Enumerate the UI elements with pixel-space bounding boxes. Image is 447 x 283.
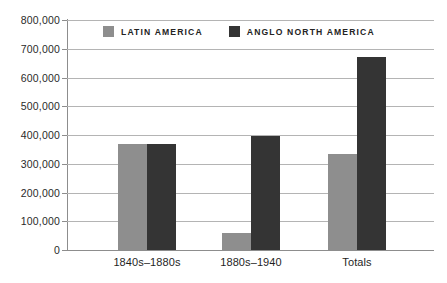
gridline [67, 20, 434, 21]
legend-swatch-icon-latin-america [103, 26, 114, 37]
x-axis-tick-label: 1880s–1940 [190, 256, 312, 268]
y-axis-tick-label: 0 [4, 245, 60, 256]
x-axis-tick-label: Totals [296, 256, 418, 268]
y-axis-tick [62, 221, 67, 222]
bar-anglo-north-america [251, 136, 280, 250]
y-axis-tick [62, 250, 67, 251]
bar-anglo-north-america [357, 57, 386, 250]
bar-chart: 800,000700,000600,000500,000400,000300,0… [0, 0, 447, 283]
y-axis-tick [62, 135, 67, 136]
y-axis-tick-label: 300,000 [4, 159, 60, 170]
bar-latin-america [222, 233, 251, 250]
y-axis-tick-label: 600,000 [4, 73, 60, 84]
legend-label-anglo-north-america: ANGLO NORTH AMERICA [247, 27, 375, 37]
y-axis-tick [62, 164, 67, 165]
y-axis-tick-label: 700,000 [4, 44, 60, 55]
chart-legend: LATIN AMERICA ANGLO NORTH AMERICA [103, 26, 375, 37]
y-axis-tick [62, 193, 67, 194]
legend-label-latin-america: LATIN AMERICA [121, 27, 203, 37]
y-axis-tick [62, 49, 67, 50]
y-axis-labels: 800,000700,000600,000500,000400,000300,0… [0, 0, 60, 283]
y-axis-tick-label: 200,000 [4, 188, 60, 199]
gridline [67, 250, 434, 251]
legend-item-latin-america: LATIN AMERICA [103, 26, 203, 37]
bar-latin-america [118, 144, 147, 250]
legend-swatch-icon-anglo-north-america [229, 26, 240, 37]
bar-anglo-north-america [147, 144, 176, 250]
y-axis-tick-label: 800,000 [4, 15, 60, 26]
y-axis-tick [62, 106, 67, 107]
y-axis-tick-label: 400,000 [4, 130, 60, 141]
y-axis-tick [62, 78, 67, 79]
gridline [67, 49, 434, 50]
legend-item-anglo-north-america: ANGLO NORTH AMERICA [229, 26, 375, 37]
bar-latin-america [328, 154, 357, 250]
y-axis-tick-label: 500,000 [4, 101, 60, 112]
y-axis-tick [62, 20, 67, 21]
y-axis-tick-label: 100,000 [4, 216, 60, 227]
